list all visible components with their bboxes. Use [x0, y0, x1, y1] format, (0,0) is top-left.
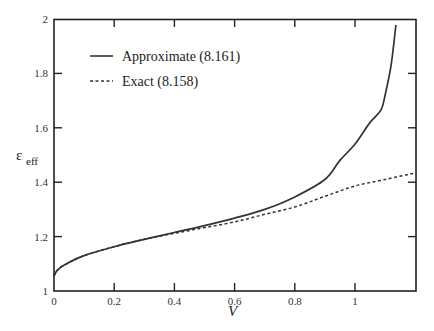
x-tick-label: 0 [51, 295, 57, 307]
y-tick-label: 1.8 [34, 67, 48, 79]
legend-label-exact: Exact (8.158) [122, 74, 199, 90]
x-tick-label: 0.8 [288, 295, 302, 307]
y-tick-label: 2 [43, 13, 49, 25]
y-tick-label: 1.6 [34, 122, 48, 134]
y-tick-label: 1.4 [34, 176, 48, 188]
y-tick-label: 1.2 [34, 231, 48, 243]
legend-label-approximate: Approximate (8.161) [122, 49, 241, 65]
y-axis-title-sub: eff [26, 155, 38, 167]
legend: Approximate (8.161) Exact (8.158) [90, 49, 241, 90]
x-tick-label: 0.4 [168, 295, 182, 307]
chart: 00.20.40.60.81 11.21.41.61.82 Approximat… [0, 0, 434, 331]
y-tick-label: 1 [43, 285, 49, 297]
x-tick-label: 0.2 [107, 295, 121, 307]
y-axis-title-main: ε [16, 147, 22, 163]
exact-series-line [54, 173, 415, 276]
y-axis-title: ε eff [16, 147, 38, 167]
x-tick-label: 1 [352, 295, 358, 307]
